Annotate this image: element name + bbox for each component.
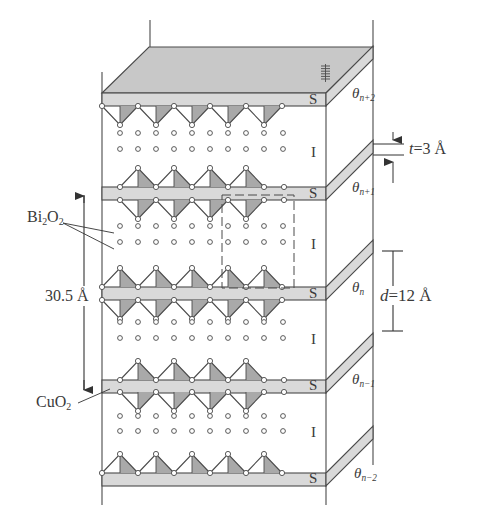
layered-superconductor-diagram: S S S S S I I I I θn+2 θn+1 θn θn−1 θn−2… <box>0 0 480 529</box>
theta-label-n: θn <box>352 280 364 297</box>
cuo2-label: CuO2 <box>36 394 71 412</box>
insulator-label-4: I <box>311 425 316 440</box>
s-label-n+1: S <box>309 186 317 201</box>
s-label-n+2: S <box>309 92 317 107</box>
insulator-label-2: I <box>311 237 316 252</box>
s-label-n: S <box>309 286 317 301</box>
s-label-n-1: S <box>309 378 317 393</box>
theta-label-n+2: θn+2 <box>352 86 375 103</box>
theta-label-n-2: θn−2 <box>354 466 377 483</box>
bi2o2-label: Bi2O2 <box>27 209 64 227</box>
thickness-label: t=3 Å <box>409 141 446 157</box>
insulator-label-1: I <box>311 145 316 160</box>
diagram-canvas <box>0 0 480 529</box>
s-label-n-2: S <box>309 471 317 486</box>
insulator-label-3: I <box>311 332 316 347</box>
period-label: 30.5 Å <box>45 286 89 306</box>
theta-label-n+1: θn+1 <box>352 180 375 197</box>
theta-label-n-1: θn−1 <box>352 372 375 389</box>
spacing-label: d=12 Å <box>380 286 432 305</box>
